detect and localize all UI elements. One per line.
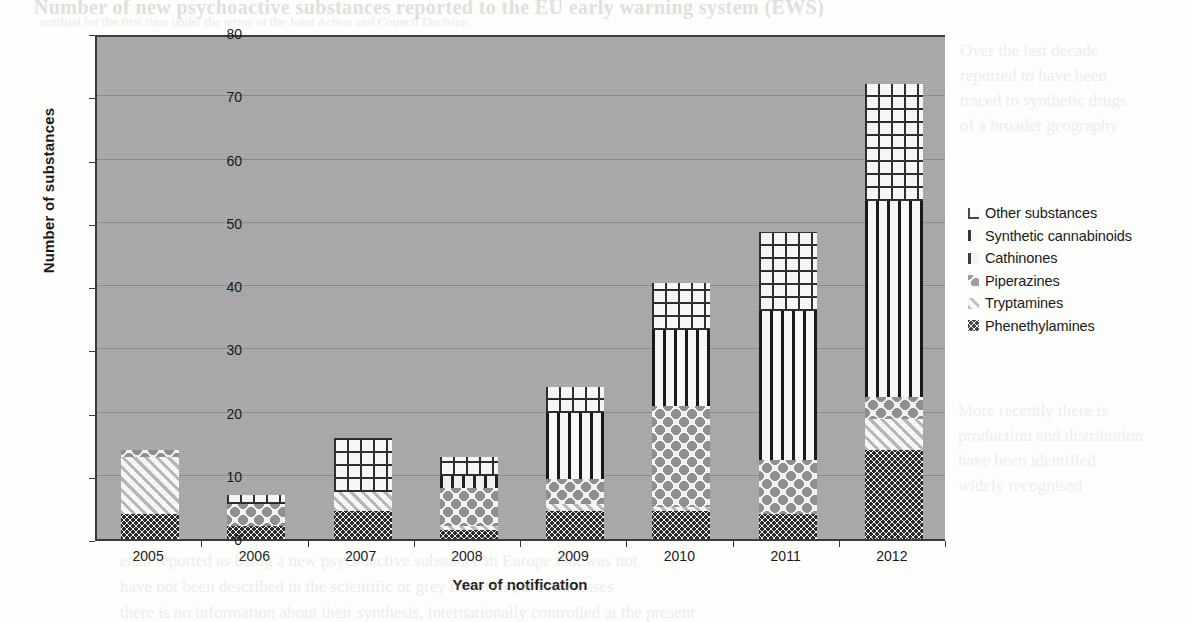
y-tick-label-20: 20 <box>182 406 242 422</box>
bar-2008[interactable] <box>440 33 498 539</box>
bar-2005[interactable] <box>121 33 179 539</box>
bar-2010[interactable] <box>652 33 710 539</box>
x-tick-mark-2006 <box>308 541 309 547</box>
y-tick-mark-60 <box>89 162 95 163</box>
bar-2009[interactable] <box>546 33 604 539</box>
legend-item-piperazines[interactable]: Piperazines <box>968 270 1183 293</box>
legend-label: Other substances <box>985 205 1097 221</box>
bar-segment-2008-piperazines[interactable] <box>440 488 498 526</box>
y-tick-label-40: 40 <box>182 279 242 295</box>
x-tick-label-2012: 2012 <box>832 548 952 564</box>
legend-swatch-icon-other-substances <box>968 208 979 219</box>
bar-segment-2006-other-substances[interactable] <box>227 495 285 504</box>
x-tick-mark-2005 <box>201 541 202 547</box>
bar-segment-2012-piperazines[interactable] <box>865 397 923 419</box>
bar-2007[interactable] <box>334 33 392 539</box>
bar-segment-2009-other-substances[interactable] <box>546 387 604 412</box>
y-tick-label-0: 0 <box>182 532 242 548</box>
y-tick-mark-50 <box>89 225 95 226</box>
legend-swatch-icon-synthetic-cannabinoids <box>968 230 979 241</box>
bar-segment-2011-phenethylamines[interactable] <box>759 514 817 539</box>
x-tick-mark-2008 <box>520 541 521 547</box>
legend-label: Phenethylamines <box>985 318 1095 334</box>
x-tick-label-2010: 2010 <box>619 548 739 564</box>
y-tick-label-50: 50 <box>182 216 242 232</box>
bar-segment-2010-other-substances[interactable] <box>652 283 710 330</box>
y-axis-title: Number of substances <box>40 81 57 301</box>
bar-segment-2007-other-substances[interactable] <box>334 438 392 492</box>
x-tick-mark-2009 <box>626 541 627 547</box>
bar-segment-2008-other-substances[interactable] <box>440 457 498 476</box>
bar-2012[interactable] <box>865 33 923 539</box>
bar-segment-2010-phenethylamines[interactable] <box>652 511 710 539</box>
legend-swatch-icon-phenethylamines <box>968 320 979 331</box>
legend-item-cathinones[interactable]: Cathinones <box>968 247 1183 270</box>
bar-segment-2010-synthetic-cannabinoids[interactable] <box>652 330 710 406</box>
bar-segment-2012-synthetic-cannabinoids[interactable] <box>865 201 923 397</box>
y-tick-mark-30 <box>89 351 95 352</box>
legend-label: Piperazines <box>985 273 1060 289</box>
y-tick-label-10: 10 <box>182 469 242 485</box>
x-tick-mark-2010 <box>733 541 734 547</box>
bar-segment-2007-phenethylamines[interactable] <box>334 511 392 539</box>
y-tick-mark-80 <box>89 35 95 36</box>
x-tick-label-2011: 2011 <box>726 548 846 564</box>
bar-segment-2012-tryptamines[interactable] <box>865 419 923 451</box>
bar-segment-2005-phenethylamines[interactable] <box>121 514 179 539</box>
legend-item-other-substances[interactable]: Other substances <box>968 202 1183 225</box>
bar-segment-2010-piperazines[interactable] <box>652 406 710 507</box>
y-tick-label-80: 80 <box>182 26 242 42</box>
bar-segment-2009-piperazines[interactable] <box>546 479 604 504</box>
legend: Other substancesSynthetic cannabinoidsCa… <box>968 202 1183 337</box>
bar-segment-2008-tryptamines[interactable] <box>440 526 498 529</box>
stacked-bar-chart: Number of substances 80706050403020100 2… <box>0 0 1194 622</box>
x-tick-label-2007: 2007 <box>301 548 421 564</box>
x-tick-label-2008: 2008 <box>407 548 527 564</box>
legend-swatch-icon-tryptamines <box>968 298 979 309</box>
x-tick-label-2005: 2005 <box>88 548 208 564</box>
bar-segment-2012-phenethylamines[interactable] <box>865 450 923 539</box>
legend-label: Synthetic cannabinoids <box>985 228 1132 244</box>
bar-segment-2011-synthetic-cannabinoids[interactable] <box>759 311 817 460</box>
x-tick-label-2006: 2006 <box>194 548 314 564</box>
y-tick-label-60: 60 <box>182 153 242 169</box>
legend-swatch-icon-piperazines <box>968 275 979 286</box>
y-tick-mark-10 <box>89 478 95 479</box>
legend-label: Cathinones <box>985 250 1057 266</box>
bar-segment-2010-tryptamines[interactable] <box>652 507 710 510</box>
legend-label: Tryptamines <box>985 295 1063 311</box>
y-tick-label-70: 70 <box>182 89 242 105</box>
bar-segment-2009-synthetic-cannabinoids[interactable] <box>546 413 604 479</box>
bar-segment-2008-cathinones[interactable] <box>440 476 498 489</box>
legend-item-tryptamines[interactable]: Tryptamines <box>968 292 1183 315</box>
bar-segment-2008-phenethylamines[interactable] <box>440 530 498 539</box>
y-tick-mark-0 <box>89 541 95 542</box>
x-tick-mark-2012 <box>945 541 946 547</box>
x-axis-title: Year of notification <box>0 576 1040 593</box>
bar-segment-2006-piperazines[interactable] <box>227 504 285 526</box>
y-tick-mark-70 <box>89 98 95 99</box>
bar-segment-2005-piperazines[interactable] <box>121 450 179 456</box>
bar-segment-2012-other-substances[interactable] <box>865 84 923 201</box>
y-tick-label-30: 30 <box>182 342 242 358</box>
bar-segment-2005-tryptamines[interactable] <box>121 457 179 514</box>
x-tick-mark-2007 <box>414 541 415 547</box>
legend-swatch-icon-cathinones <box>968 253 979 264</box>
legend-item-phenethylamines[interactable]: Phenethylamines <box>968 315 1183 338</box>
y-tick-mark-40 <box>89 288 95 289</box>
bar-segment-2011-other-substances[interactable] <box>759 232 817 311</box>
y-tick-mark-20 <box>89 415 95 416</box>
bar-segment-2009-tryptamines[interactable] <box>546 504 604 510</box>
x-tick-mark-2011 <box>839 541 840 547</box>
bar-segment-2009-phenethylamines[interactable] <box>546 511 604 539</box>
bar-2011[interactable] <box>759 33 817 539</box>
bar-segment-2011-piperazines[interactable] <box>759 460 817 514</box>
bar-segment-2007-tryptamines[interactable] <box>334 492 392 511</box>
x-tick-label-2009: 2009 <box>513 548 633 564</box>
legend-item-synthetic-cannabinoids[interactable]: Synthetic cannabinoids <box>968 225 1183 248</box>
